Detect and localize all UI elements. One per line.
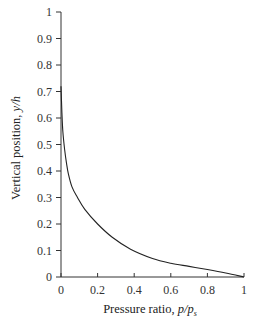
- y-tick-label: 0.4: [37, 164, 52, 178]
- y-axis-label: Vertical position, y/h: [9, 96, 23, 200]
- y-tick-label: 0.6: [37, 111, 52, 125]
- x-tick-label: 0: [58, 283, 64, 297]
- y-tick-label: 0.1: [37, 244, 52, 258]
- x-tick-label: 0.2: [90, 283, 105, 297]
- y-tick-label: 1: [46, 5, 52, 19]
- x-tick-label: 0.8: [200, 283, 215, 297]
- x-tick-label: 0.6: [163, 283, 178, 297]
- y-tick-label: 0: [46, 270, 52, 284]
- x-tick-label: 1: [241, 283, 247, 297]
- y-tick-label: 0.8: [37, 58, 52, 72]
- y-axis-ticks: 00.10.20.30.40.50.60.70.80.91: [37, 5, 61, 284]
- x-axis-label: Pressure ratio, p/ps: [103, 302, 197, 318]
- y-tick-label: 0.9: [37, 32, 52, 46]
- pressure-curve: [61, 86, 244, 277]
- y-tick-label: 0.5: [37, 138, 52, 152]
- y-tick-label: 0.7: [37, 85, 52, 99]
- chart: 00.10.20.30.40.50.60.70.80.91 00.20.40.6…: [0, 0, 254, 327]
- y-tick-label: 0.3: [37, 191, 52, 205]
- y-tick-label: 0.2: [37, 217, 52, 231]
- x-tick-label: 0.4: [127, 283, 142, 297]
